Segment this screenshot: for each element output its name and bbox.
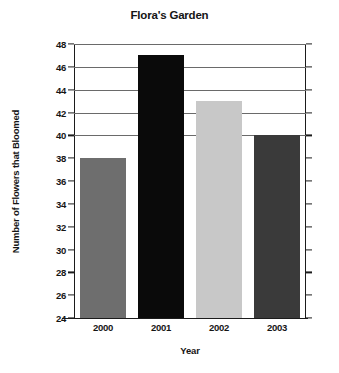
- bar-slot: [74, 44, 132, 318]
- x-axis-tick-label: 2000: [74, 322, 132, 333]
- x-axis-tick-label: 2002: [190, 322, 248, 333]
- y-axis-tick-mark-right: [306, 226, 312, 227]
- bars-group: [74, 44, 306, 318]
- y-axis-tick-mark-right: [306, 158, 312, 159]
- y-axis-tick-label: 44: [40, 84, 66, 95]
- chart-title: Flora's Garden: [0, 9, 339, 21]
- y-axis-tick-mark-right: [306, 272, 312, 273]
- y-axis-tick-label: 38: [40, 153, 66, 164]
- y-axis-tick-mark-right: [306, 317, 312, 318]
- y-axis-title-text: Number of Flowers that Bloomed: [11, 109, 22, 252]
- bar-2002[interactable]: [196, 101, 242, 318]
- x-axis-tick-label: 2003: [248, 322, 306, 333]
- y-axis-tick-mark-right: [306, 89, 312, 90]
- bar-slot: [248, 44, 306, 318]
- y-axis-tick-label: 26: [40, 290, 66, 301]
- y-axis-tick-mark-right: [306, 112, 312, 113]
- y-axis-tick-mark-right: [306, 180, 312, 181]
- bar-2000[interactable]: [80, 158, 126, 318]
- y-axis-tick-mark-right: [306, 43, 312, 44]
- bar-2003[interactable]: [254, 135, 300, 318]
- y-axis-tick-label: 40: [40, 130, 66, 141]
- y-axis-tick-mark-right: [306, 66, 312, 67]
- x-axis-title: Year: [74, 345, 306, 356]
- y-axis-tick-label: 34: [40, 198, 66, 209]
- y-axis-tick-label: 42: [40, 107, 66, 118]
- y-axis-tick-label: 30: [40, 244, 66, 255]
- bar-slot: [190, 44, 248, 318]
- bar-slot: [132, 44, 190, 318]
- x-axis-tick-label: 2001: [132, 322, 190, 333]
- y-axis-tick-label: 36: [40, 176, 66, 187]
- y-axis-tick-label: 24: [40, 313, 66, 324]
- bar-chart-figure: Flora's Garden Number of Flowers that Bl…: [0, 0, 339, 373]
- y-axis-tick-label: 46: [40, 61, 66, 72]
- bar-2001[interactable]: [138, 55, 184, 318]
- x-axis-line: [62, 318, 308, 319]
- y-axis-tick-label: 28: [40, 267, 66, 278]
- y-axis-tick-mark-right: [306, 295, 312, 296]
- y-axis-tick-label: 32: [40, 221, 66, 232]
- y-axis-tick-label: 48: [40, 39, 66, 50]
- y-axis-tick-mark-right: [306, 249, 312, 250]
- y-axis-tick-mark-right: [306, 203, 312, 204]
- y-axis-tick-mark-right: [306, 135, 312, 136]
- y-axis-title: Number of Flowers that Bloomed: [8, 44, 24, 318]
